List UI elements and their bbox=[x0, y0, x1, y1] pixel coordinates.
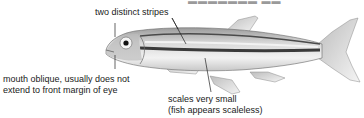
callout-stripes: two distinct stripes bbox=[95, 7, 169, 18]
pelvic-fin bbox=[210, 76, 240, 94]
callout-mouth-line-2: extend to front margin of eye bbox=[3, 85, 130, 96]
callout-mouth: mouth oblique, usually does not extend t… bbox=[3, 74, 130, 95]
fish-diagram: ▬▬▬▬▬▬▬ ▬▬ bbox=[0, 0, 364, 118]
callout-scales-line-2: (fish appears scaleless) bbox=[168, 105, 263, 116]
callout-scales: scales very small (fish appears scaleles… bbox=[168, 94, 263, 115]
callout-scales-line-1: scales very small bbox=[168, 94, 263, 105]
callout-mouth-line-1: mouth oblique, usually does not bbox=[3, 74, 130, 85]
pupil bbox=[123, 40, 128, 45]
caudal-fin bbox=[318, 18, 360, 82]
anal-fin bbox=[250, 72, 285, 82]
